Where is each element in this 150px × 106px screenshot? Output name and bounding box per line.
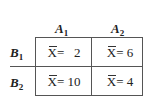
col-label: A [55,21,64,36]
col-label: A [111,21,120,36]
x-bar-symbol: X [107,45,116,61]
equals: = [57,74,68,90]
cell-value: 10 [67,74,80,90]
row-label: B [10,75,19,90]
column-header-a2: A2 [111,22,124,35]
row-sub: 1 [19,52,24,62]
equals: = [116,45,127,61]
row-label: B [10,45,19,60]
cell-value: 4 [127,74,134,90]
x-bar-symbol: X [48,45,57,61]
cell-b1-a1: X= 2 [36,38,92,67]
equals: = [57,45,74,61]
cell-b1-a2: X= 6 [92,38,148,67]
row-header-b2: B2 [10,76,23,89]
cell-b2-a2: X= 4 [92,67,148,96]
row-sub: 2 [19,82,24,92]
cell-value: 2 [74,45,81,61]
row-header-b1: B1 [10,46,23,59]
column-header-a1: A1 [55,22,68,35]
x-bar-symbol: X [48,74,57,90]
equals: = [116,74,127,90]
x-bar-symbol: X [107,74,116,90]
cell-b2-a1: X= 10 [36,67,92,96]
cell-value: 6 [127,45,134,61]
